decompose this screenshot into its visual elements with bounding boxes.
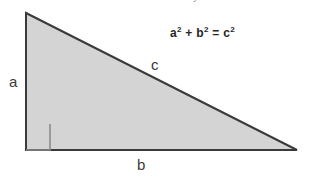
label-hypotenuse-c: c <box>151 57 159 72</box>
clipped-heading-text: theory <box>168 0 199 2</box>
formula-exp-c: 2 <box>230 25 235 34</box>
formula-base-b: b <box>196 26 204 40</box>
label-leg-b: b <box>137 157 145 172</box>
label-leg-a: a <box>9 74 17 89</box>
right-triangle-shape <box>26 13 297 150</box>
pythagorean-formula: a2 + b2 = c2 <box>170 27 235 39</box>
triangle-graphic <box>0 0 310 183</box>
pythagorean-theorem-diagram: a b c a2 + b2 = c2 theory <box>0 0 310 183</box>
formula-plus: + <box>182 26 197 40</box>
formula-base-a: a <box>170 26 177 40</box>
formula-equals: = <box>209 26 224 40</box>
